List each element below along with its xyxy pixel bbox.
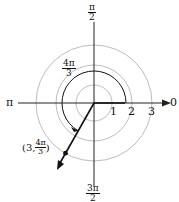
tick-1: 1 xyxy=(110,106,117,117)
label-3pi-over-2: 3π 2 xyxy=(86,184,100,202)
tick-2: 2 xyxy=(128,106,135,117)
point-label: (3, 4π 3 ) xyxy=(22,139,50,156)
label-pi: π xyxy=(6,97,13,108)
label-angle: 4π 3 xyxy=(62,59,76,78)
label-zero: 0 xyxy=(170,97,177,108)
tick-3: 3 xyxy=(148,106,155,117)
polar-diagram: 0 π π 2 3π 2 1 2 3 4π 3 (3, 4π 3 ) xyxy=(0,0,179,202)
point-marker xyxy=(63,151,68,156)
label-pi-over-2: π 2 xyxy=(88,3,96,22)
polar-graph xyxy=(0,0,179,202)
